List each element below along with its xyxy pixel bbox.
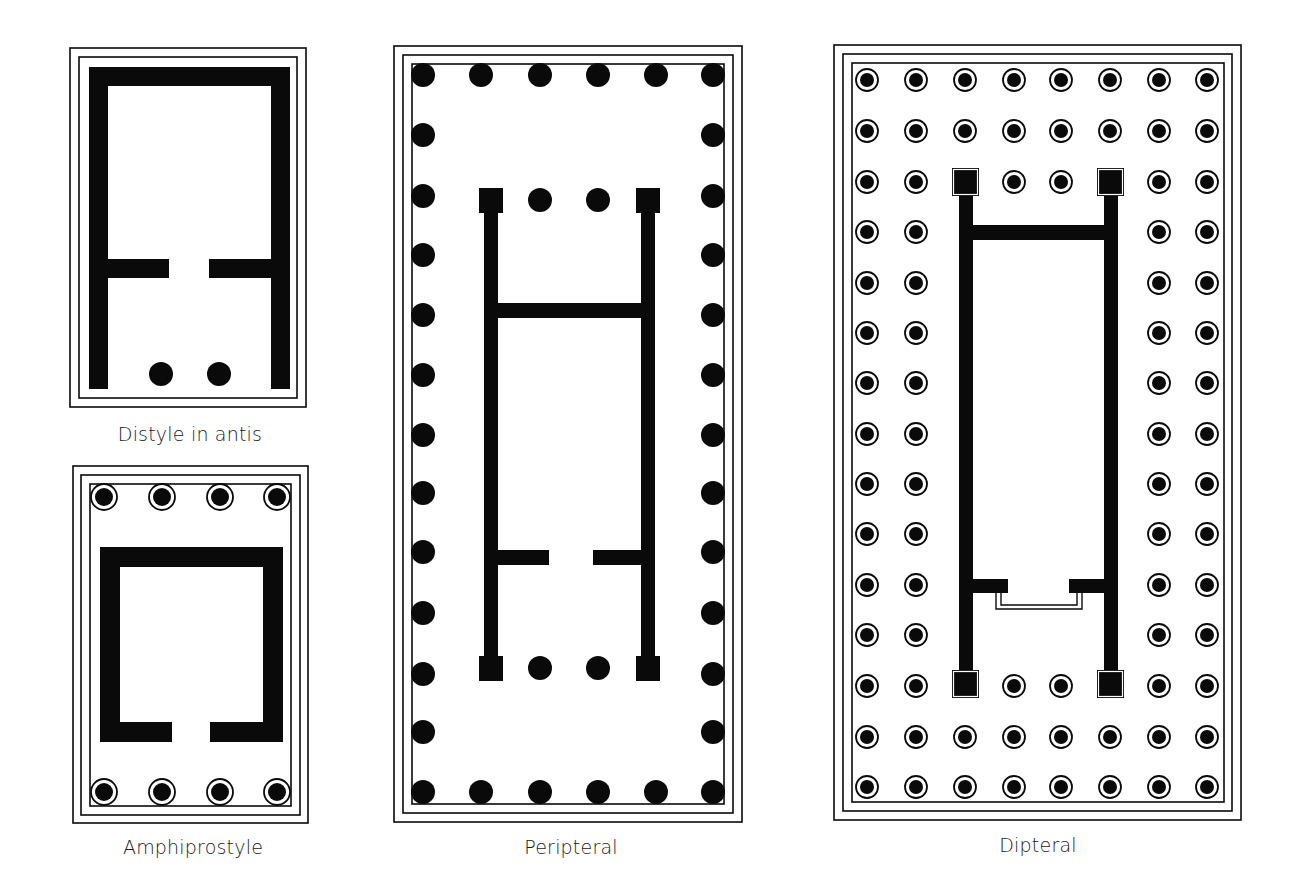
anta-block	[1097, 670, 1124, 698]
cella-wall	[89, 67, 108, 389]
column-core	[1152, 376, 1166, 390]
column-icon	[411, 184, 435, 208]
column-core	[1007, 780, 1021, 794]
label-amphiprostyle: Amphiprostyle	[123, 836, 263, 858]
column-icon	[149, 362, 173, 386]
column-core	[95, 488, 113, 506]
cella-wall	[100, 547, 120, 742]
column-core	[1054, 124, 1068, 138]
column-core	[1152, 628, 1166, 642]
column-core	[860, 730, 874, 744]
column-core	[268, 488, 286, 506]
column-icon	[701, 662, 725, 686]
stylobate-border	[90, 484, 291, 806]
column-icon	[528, 780, 552, 804]
stylobate-border	[843, 54, 1232, 811]
column-core	[1152, 730, 1166, 744]
column-icon	[411, 481, 435, 505]
anta-block	[479, 656, 503, 681]
column-core	[1152, 124, 1166, 138]
column-core	[1152, 527, 1166, 541]
column-icon	[469, 63, 493, 87]
column-icon	[701, 123, 725, 147]
temple-plans-diagram	[0, 0, 1293, 892]
column-icon	[411, 123, 435, 147]
plan-peripteral	[394, 46, 742, 822]
column-core	[958, 73, 972, 87]
column-core	[268, 783, 286, 801]
column-core	[1200, 780, 1214, 794]
column-icon	[469, 780, 493, 804]
label-dipteral: Dipteral	[999, 834, 1076, 856]
column-core	[1200, 679, 1214, 693]
column-icon	[411, 423, 435, 447]
column-icon	[701, 303, 725, 327]
cella-wall	[498, 303, 641, 318]
cella-wall	[498, 550, 549, 565]
cella-wall	[973, 225, 1104, 240]
column-icon	[528, 656, 552, 680]
column-core	[860, 780, 874, 794]
cella-wall	[89, 67, 290, 86]
column-core	[1200, 730, 1214, 744]
column-core	[909, 578, 923, 592]
label-distyle-in-antis: Distyle in antis	[118, 423, 262, 445]
column-core	[909, 326, 923, 340]
column-core	[1200, 73, 1214, 87]
stylobate-border	[834, 45, 1241, 820]
column-core	[1152, 477, 1166, 491]
column-core	[909, 276, 923, 290]
anta-block	[1097, 168, 1124, 196]
column-core	[153, 488, 171, 506]
cella-wall	[271, 67, 290, 389]
stylobate-border	[79, 57, 297, 398]
column-core	[909, 124, 923, 138]
column-core	[211, 488, 229, 506]
column-core	[1103, 124, 1117, 138]
column-core	[1200, 276, 1214, 290]
column-icon	[701, 363, 725, 387]
column-icon	[411, 780, 435, 804]
column-core	[1200, 225, 1214, 239]
label-peripteral: Peripteral	[524, 836, 618, 858]
column-core	[1007, 679, 1021, 693]
column-icon	[411, 243, 435, 267]
column-icon	[586, 188, 610, 212]
column-core	[1152, 578, 1166, 592]
column-icon	[207, 362, 231, 386]
column-core	[1007, 730, 1021, 744]
cella-wall	[108, 259, 169, 278]
column-icon	[411, 662, 435, 686]
column-core	[1007, 175, 1021, 189]
column-core	[909, 477, 923, 491]
column-icon	[701, 601, 725, 625]
column-core	[909, 73, 923, 87]
column-icon	[701, 481, 725, 505]
threshold-step	[996, 593, 1082, 609]
column-icon	[411, 363, 435, 387]
column-core	[1200, 376, 1214, 390]
column-icon	[411, 303, 435, 327]
cella-wall	[593, 550, 641, 565]
column-core	[909, 730, 923, 744]
column-core	[909, 225, 923, 239]
cella-wall	[973, 579, 1008, 593]
cella-wall	[641, 200, 655, 680]
column-core	[909, 679, 923, 693]
column-icon	[411, 63, 435, 87]
cella-wall	[100, 547, 283, 567]
column-icon	[644, 63, 668, 87]
column-core	[1152, 73, 1166, 87]
column-core	[860, 225, 874, 239]
plan-distyle-in-antis	[70, 48, 306, 407]
column-core	[153, 783, 171, 801]
column-core	[1152, 326, 1166, 340]
column-core	[909, 527, 923, 541]
column-core	[860, 326, 874, 340]
column-icon	[701, 423, 725, 447]
column-icon	[701, 540, 725, 564]
stylobate-border	[412, 64, 724, 804]
column-core	[1200, 175, 1214, 189]
column-icon	[701, 63, 725, 87]
column-core	[860, 276, 874, 290]
